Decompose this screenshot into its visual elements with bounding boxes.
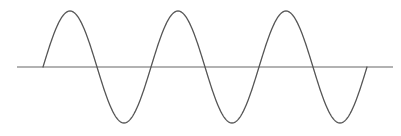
sine-wave-diagram [0, 0, 401, 136]
